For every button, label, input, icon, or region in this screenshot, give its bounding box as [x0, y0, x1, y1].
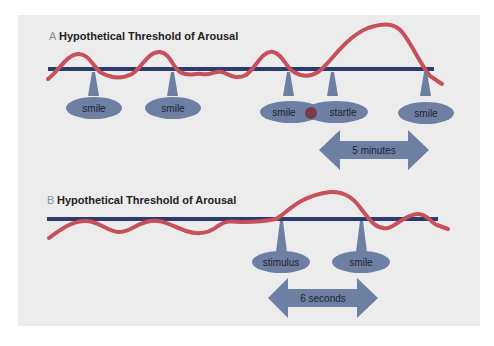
- duration-arrow-a: 5 minutes: [319, 130, 429, 170]
- panel-a-title: Hypothetical Threshold of Arousal: [59, 30, 238, 42]
- panel-a: A Hypothetical Threshold of Arousal smil…: [48, 25, 454, 170]
- arousal-diagram: A Hypothetical Threshold of Arousal smil…: [0, 0, 494, 346]
- svg-text:smile: smile: [414, 108, 438, 119]
- label-smile-4: smile: [398, 72, 454, 124]
- label-stimulus: stimulus: [252, 221, 310, 273]
- duration-a: 5 minutes: [352, 145, 395, 156]
- duration-b: 6 seconds: [300, 293, 346, 304]
- panel-b-letter: B: [47, 194, 54, 206]
- svg-text:smile: smile: [272, 107, 296, 118]
- panel-a-letter: A: [49, 30, 57, 42]
- svg-text:startle: startle: [329, 107, 357, 118]
- svg-text:stimulus: stimulus: [263, 257, 300, 268]
- overlap-dot: [305, 107, 317, 119]
- panel-b-title: Hypothetical Threshold of Arousal: [57, 194, 236, 206]
- svg-text:smile: smile: [161, 103, 185, 114]
- panel-b: B Hypothetical Threshold of Arousal stim…: [47, 192, 448, 318]
- label-smile-2: smile: [145, 72, 201, 119]
- svg-text:smile: smile: [82, 103, 106, 114]
- duration-arrow-b: 6 seconds: [268, 278, 378, 318]
- svg-text:smile: smile: [349, 257, 373, 268]
